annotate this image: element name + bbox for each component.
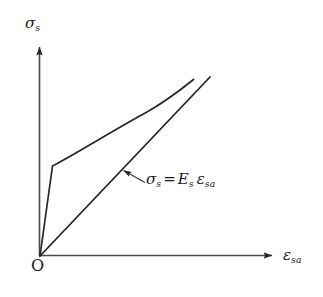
equation-rhs-subscript-2: sa	[205, 178, 216, 189]
equation-lhs-symbol: σ	[146, 170, 156, 188]
equation-annotation: σs=Esεsa	[146, 172, 216, 188]
equation-rhs-symbol-2: ε	[197, 170, 205, 188]
equation-relation: =	[161, 170, 178, 188]
stress-strain-figure: σs εsa O σs=Esεsa	[0, 0, 323, 297]
secant-line	[40, 77, 210, 256]
x-axis-label: εsa	[283, 248, 302, 264]
origin-label: O	[31, 258, 44, 274]
leader-arrow-icon	[124, 171, 146, 183]
y-axis-label: σs	[25, 16, 40, 32]
figure-canvas	[0, 0, 323, 297]
x-axis-symbol: ε	[283, 246, 291, 264]
stress-strain-curve	[40, 80, 194, 257]
x-axis-subscript: sa	[291, 254, 302, 265]
y-axis-symbol: σ	[25, 14, 35, 32]
equation-rhs-subscript-1: s	[189, 178, 194, 189]
equation-rhs-symbol-1: E	[178, 170, 189, 188]
y-axis-subscript: s	[35, 22, 40, 33]
